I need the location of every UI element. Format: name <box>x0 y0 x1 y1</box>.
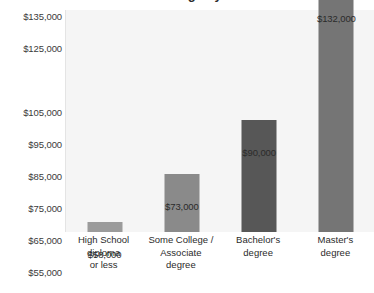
x-axis-category-label: Some College /Associatedegree <box>142 234 219 272</box>
x-axis-category-label: Bachelor'sdegree <box>220 234 297 259</box>
y-axis-tick-label: $135,000 <box>0 11 62 22</box>
y-axis-tick-label: $55,000 <box>0 267 62 278</box>
bar <box>242 120 277 232</box>
bar-value-label: $90,000 <box>242 147 276 158</box>
x-axis-category-line: degree <box>220 247 297 260</box>
y-axis-tick-label: $75,000 <box>0 203 62 214</box>
x-axis-category-line: Some College / <box>142 234 219 247</box>
x-axis-category-line: High School <box>65 234 142 247</box>
bar-group: $73,000 <box>143 10 220 232</box>
x-axis-category-line: or less <box>65 259 142 272</box>
y-axis-tick-label: $125,000 <box>0 43 62 54</box>
x-axis-category-line: diploma <box>65 247 142 260</box>
bar-group: $58,000 <box>66 10 143 232</box>
x-axis-category-line: Bachelor's <box>220 234 297 247</box>
y-axis: $135,000$125,000$105,000$95,000$85,000$7… <box>0 0 62 240</box>
x-axis-category-label: High Schooldiplomaor less <box>65 234 142 272</box>
y-axis-tick-label: $65,000 <box>0 235 62 246</box>
bar <box>319 0 354 232</box>
x-axis: High Schooldiplomaor lessSome College /A… <box>65 234 374 293</box>
bar-value-label: $73,000 <box>165 201 199 212</box>
y-axis-tick-label: $85,000 <box>0 171 62 182</box>
bar <box>87 222 122 232</box>
y-axis-tick-label: $105,000 <box>0 107 62 118</box>
x-axis-category-line: degree <box>297 247 374 260</box>
bar-group: $132,000 <box>298 10 374 232</box>
x-axis-category-line: degree <box>142 259 219 272</box>
x-axis-category-line: Master's <box>297 234 374 247</box>
plot-area: $58,000$73,000$90,000$132,000 <box>65 10 374 232</box>
x-axis-category-label: Master'sdegree <box>297 234 374 259</box>
bar-value-label: $132,000 <box>317 13 356 24</box>
x-axis-category-line: Associate <box>142 247 219 260</box>
y-axis-tick-label: $95,000 <box>0 139 62 150</box>
bar-chart: Median annual earnings by education leve… <box>0 0 374 293</box>
bar-group: $90,000 <box>221 10 298 232</box>
